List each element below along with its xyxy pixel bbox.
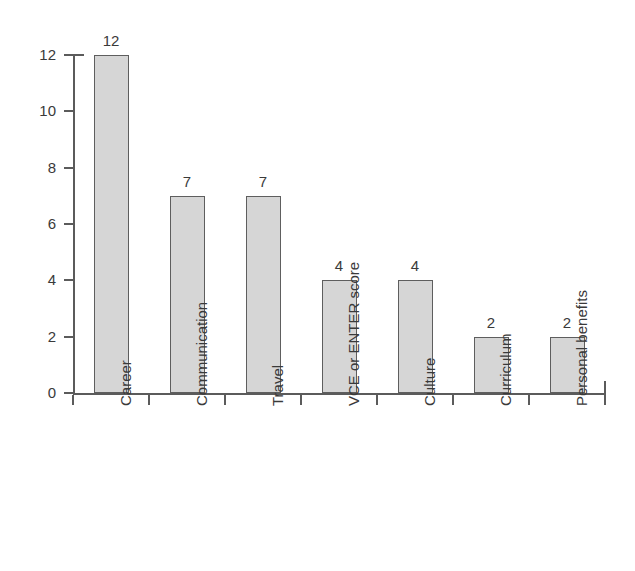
y-axis-tick [64, 392, 73, 394]
y-axis-tick [64, 54, 73, 56]
y-axis-tick-label: 2 [0, 329, 56, 344]
x-axis-tick [224, 395, 226, 405]
bar-chart: 024681012 12774422 CareerCommunicationTr… [0, 0, 635, 571]
x-axis-category-label: Curriculum [498, 333, 513, 406]
bar-value-label: 2 [461, 315, 521, 330]
y-axis-tick [64, 110, 73, 112]
y-axis-tick-label: 10 [0, 103, 56, 118]
y-axis-line [73, 54, 75, 395]
x-axis-tick [604, 395, 606, 405]
x-axis-category-label: Personal benefits [574, 290, 589, 406]
bar-value-label: 4 [385, 258, 445, 273]
x-axis-category-label: Travel [270, 365, 285, 406]
y-axis-tick [64, 223, 73, 225]
x-axis-tick [452, 395, 454, 405]
x-axis-category-label: VCE or ENTER score [346, 262, 361, 406]
y-axis-tick-label: 4 [0, 272, 56, 287]
y-axis-tick-label: 6 [0, 216, 56, 231]
y-axis-top-cap [73, 54, 84, 56]
bar-value-label: 12 [81, 33, 141, 48]
x-axis-tick [148, 395, 150, 405]
y-axis-tick-label: 0 [0, 385, 56, 400]
bar [246, 196, 281, 393]
y-axis-tick-label: 12 [0, 47, 56, 62]
y-axis-tick [64, 167, 73, 169]
x-axis-category-label: Culture [422, 358, 437, 406]
x-axis-tick [528, 395, 530, 405]
x-axis-tick [300, 395, 302, 405]
bar [94, 55, 129, 393]
y-axis-tick [64, 336, 73, 338]
bar-value-label: 7 [233, 174, 293, 189]
x-axis-tick [376, 395, 378, 405]
x-axis-tick [72, 395, 74, 405]
x-axis-category-label: Communication [194, 302, 209, 406]
y-axis-tick-label: 8 [0, 160, 56, 175]
x-axis-line [73, 393, 606, 395]
x-axis-category-label: Career [118, 360, 133, 406]
x-axis-end-cap [604, 381, 606, 395]
y-axis-tick [64, 279, 73, 281]
bar-value-label: 7 [157, 174, 217, 189]
